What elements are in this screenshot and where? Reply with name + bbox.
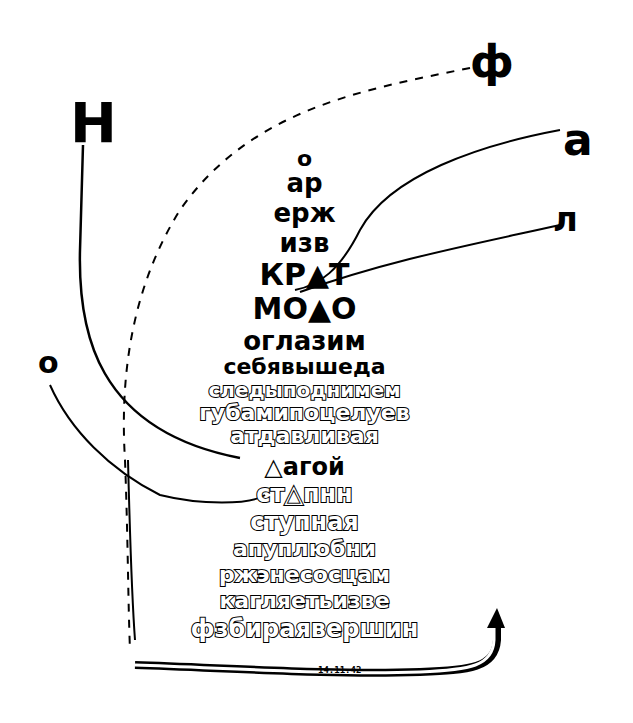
bottom-band-text: 14.11.42 — [318, 665, 361, 675]
letter-N: Н — [70, 95, 117, 151]
poem-line: оглазим — [0, 328, 621, 354]
poem-line: △агой — [0, 455, 621, 479]
poem-line: ар — [0, 170, 621, 196]
poem-line: изв — [0, 230, 621, 256]
poem-line: кагляетьизве — [0, 590, 621, 612]
poem-line: ступная — [0, 510, 621, 534]
poem-line: ржэнесосцам — [0, 564, 621, 586]
poem-line: апуплюбни — [0, 538, 621, 560]
poem-line: ст△пнн — [0, 482, 621, 506]
poem-line: о — [0, 148, 621, 170]
poem-line: губамипоцелуев — [0, 402, 621, 424]
poem-line: КР▲Т — [0, 260, 621, 290]
poem-line: атдавливая — [0, 425, 621, 447]
poem-line: следыподнимем — [0, 380, 621, 400]
poem-line: себявышеда — [0, 356, 621, 378]
poem-line: ерж — [0, 200, 621, 226]
poem-line: фзбираявершин — [0, 617, 621, 641]
letter-ef: ф — [470, 40, 514, 84]
poem-line: МО▲О — [0, 294, 621, 324]
